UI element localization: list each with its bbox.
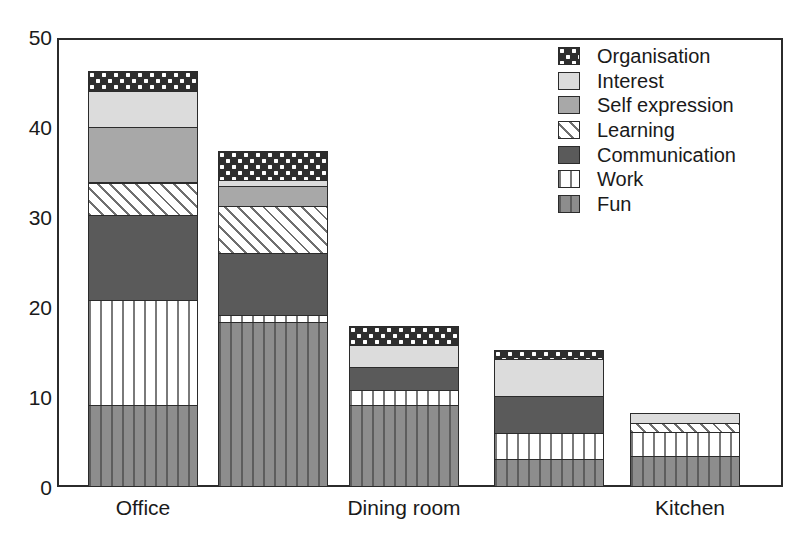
bar-unlabeled-2[interactable] [218, 152, 328, 487]
bar-kitchen[interactable] [630, 414, 740, 487]
bar-segment-fun[interactable] [349, 405, 459, 487]
legend-item-work[interactable]: Work [558, 167, 780, 192]
legend-swatch-organisation-icon [558, 47, 580, 65]
bar-segment-learning[interactable] [218, 206, 328, 255]
legend-label-organisation: Organisation [597, 46, 710, 66]
bar-segment-interest[interactable] [630, 413, 740, 424]
x-tick-label-kitchen: Kitchen [630, 497, 750, 519]
bar-segment-learning[interactable] [630, 423, 740, 433]
bar-segment-communication[interactable] [218, 253, 328, 316]
legend-swatch-fun-icon [558, 195, 580, 213]
bar-segment-organisation[interactable] [88, 71, 198, 92]
legend-swatch-communication-icon [558, 146, 580, 164]
legend-swatch-self-expression-icon [558, 96, 580, 114]
legend-swatch-learning-icon [558, 121, 580, 139]
bar-segment-work[interactable] [218, 315, 328, 322]
legend-item-communication[interactable]: Communication [558, 142, 780, 167]
legend-item-self-expression[interactable]: Self expression [558, 93, 780, 118]
legend-label-work: Work [597, 169, 643, 189]
bar-segment-work[interactable] [630, 432, 740, 457]
legend-label-interest: Interest [597, 71, 664, 91]
bar-segment-self-expression[interactable] [218, 186, 328, 207]
bar-segment-organisation[interactable] [218, 151, 328, 181]
bar-segment-fun[interactable] [494, 459, 604, 487]
legend-swatch-interest-icon [558, 72, 580, 90]
bar-segment-work[interactable] [88, 300, 198, 406]
legend-label-learning: Learning [597, 120, 675, 140]
legend-label-fun: Fun [597, 194, 631, 214]
bar-dining-room[interactable] [349, 327, 459, 487]
bar-segment-communication[interactable] [88, 215, 198, 301]
legend: OrganisationInterestSelf expressionLearn… [558, 44, 780, 216]
stacked-bar-chart: 50 40 30 20 10 0 Office Dining room Kitc… [0, 0, 798, 550]
bar-segment-fun[interactable] [88, 405, 198, 487]
bar-segment-self-expression[interactable] [88, 127, 198, 184]
bar-segment-work[interactable] [349, 390, 459, 406]
legend-label-self-expression: Self expression [597, 95, 734, 115]
bar-segment-interest[interactable] [88, 91, 198, 128]
bar-office[interactable] [88, 72, 198, 487]
bar-segment-interest[interactable] [218, 180, 328, 187]
bar-segment-communication[interactable] [494, 396, 604, 434]
legend-item-learning[interactable]: Learning [558, 118, 780, 143]
x-tick-label-office: Office [88, 497, 198, 519]
legend-label-communication: Communication [597, 145, 736, 165]
bar-segment-learning[interactable] [88, 183, 198, 216]
x-tick-label-dining-room: Dining room [329, 497, 479, 519]
bar-segment-work[interactable] [494, 433, 604, 460]
legend-item-interest[interactable]: Interest [558, 69, 780, 94]
legend-item-organisation[interactable]: Organisation [558, 44, 780, 69]
bar-segment-communication[interactable] [349, 367, 459, 390]
bar-segment-organisation[interactable] [349, 326, 459, 346]
bar-segment-organisation[interactable] [494, 350, 604, 361]
bar-segment-interest[interactable] [494, 359, 604, 397]
legend-swatch-work-icon [558, 170, 580, 188]
bar-segment-fun[interactable] [630, 456, 740, 487]
bar-unlabeled-4[interactable] [494, 351, 604, 487]
bar-segment-fun[interactable] [218, 322, 328, 487]
legend-item-fun[interactable]: Fun [558, 192, 780, 217]
bar-segment-interest[interactable] [349, 345, 459, 368]
